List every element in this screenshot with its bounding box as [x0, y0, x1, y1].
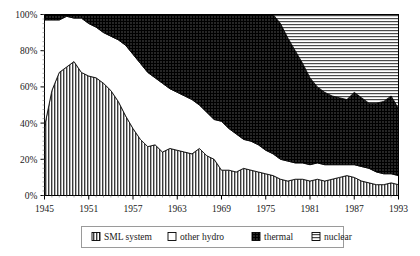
chart-container: 0%20%40%60%80%100% 194519511957196319691…	[0, 0, 420, 256]
legend-swatch-other-hydro	[168, 233, 176, 241]
y-tick-label: 20%	[20, 155, 38, 165]
x-tick-label: 1993	[389, 204, 408, 214]
x-tick-label: 1987	[345, 204, 364, 214]
x-tick-label: 1975	[256, 204, 275, 214]
legend-swatch-nuclear	[312, 233, 320, 241]
y-tick-label: 100%	[15, 10, 37, 20]
x-tick-label: 1957	[124, 204, 143, 214]
x-tick-label: 1969	[212, 204, 231, 214]
legend-label-sml-system: SML system	[104, 232, 153, 242]
legend-label-nuclear: nuclear	[324, 232, 353, 242]
legend: SML systemother hydrothermalnuclear	[82, 227, 353, 248]
y-tick-label: 80%	[20, 46, 38, 56]
x-axis: 194519511957196319691975198119871993	[35, 196, 408, 214]
x-tick-label: 1945	[35, 204, 54, 214]
y-tick-label: 60%	[20, 82, 38, 92]
legend-label-other-hydro: other hydro	[180, 232, 224, 242]
area-series-group	[45, 15, 399, 196]
x-tick-label: 1963	[168, 204, 187, 214]
y-axis: 0%20%40%60%80%100%	[15, 10, 44, 201]
x-tick-label: 1981	[301, 204, 320, 214]
x-tick-label: 1951	[79, 204, 98, 214]
y-tick-label: 40%	[20, 119, 38, 129]
legend-label-thermal: thermal	[264, 232, 293, 242]
y-tick-label: 0%	[25, 191, 38, 201]
stacked-area-chart: 0%20%40%60%80%100% 194519511957196319691…	[0, 0, 420, 256]
legend-items: SML systemother hydrothermalnuclear	[92, 232, 353, 242]
legend-swatch-thermal	[252, 233, 260, 241]
legend-swatch-sml-system	[92, 233, 100, 241]
